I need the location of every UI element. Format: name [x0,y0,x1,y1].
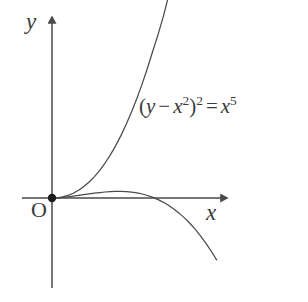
curve-lower-branch [52,191,217,260]
origin-point-marker [48,194,56,202]
math-figure: y x O (y−x2)2=x5 [0,0,308,302]
equation-y-symbol: y [146,94,155,118]
equation-rhs-exponent: 5 [230,93,237,108]
equation-rhs-symbol: x [221,94,230,118]
equation-outer-exponent: 2 [196,93,203,108]
equation-equals-operator: = [203,94,221,118]
curve-plot [0,0,308,302]
equation-x-symbol: x [173,94,182,118]
equation-open-paren: ( [139,94,146,118]
equation-minus-operator: − [155,94,173,118]
x-axis-label: x [206,201,216,224]
origin-label: O [31,199,47,221]
y-axis-label: y [26,10,36,33]
equation-annotation: (y−x2)2=x5 [139,96,237,117]
